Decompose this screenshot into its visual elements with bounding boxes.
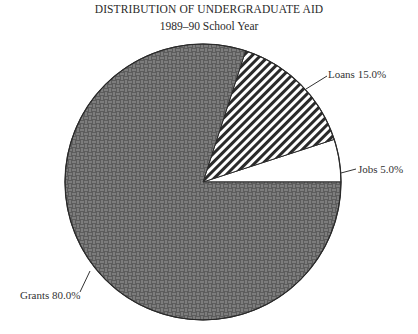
jobs-callout-line [341, 169, 356, 173]
label-grants: Grants 80.0% [20, 289, 81, 301]
loans-callout-line [306, 76, 327, 89]
label-loans: Loans 15.0% [328, 68, 386, 80]
grants-callout-line [80, 271, 90, 292]
pie-chart: Loans 15.0% Jobs 5.0% Grants 80.0% [0, 0, 418, 334]
label-jobs: Jobs 5.0% [358, 163, 403, 175]
